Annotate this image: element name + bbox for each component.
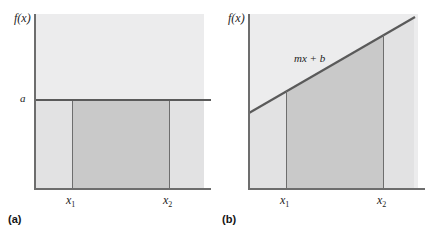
function-label-b: mx + b	[294, 53, 325, 64]
x-tick-sub-x1-b: 1	[285, 200, 289, 209]
x-axis-a	[34, 188, 211, 190]
x-tick-label-x2-a: x2	[163, 194, 172, 209]
x-tick-sub-x2-a: 2	[168, 200, 172, 209]
x-tick-sub-x2-b: 2	[382, 200, 386, 209]
x-tick-label-x1-a: x1	[66, 194, 75, 209]
x-axis-b	[248, 188, 425, 190]
y-axis-label-a: f(x)	[14, 12, 31, 24]
panel-caption-a: (a)	[8, 214, 21, 225]
vertical-line-x1-b	[286, 91, 287, 189]
panel-a: f(x) a x1 x2 (a)	[0, 0, 214, 238]
y-axis-b	[248, 14, 250, 189]
x-tick-label-x1-b: x1	[280, 194, 289, 209]
function-line-a	[36, 99, 211, 101]
y-axis-label-b: f(x)	[228, 12, 245, 24]
x-tick-label-x2-b: x2	[377, 194, 386, 209]
value-label-a: a	[20, 93, 26, 104]
y-axis-a	[34, 14, 36, 189]
figure-container: f(x) a x1 x2 (a) f(x) mx + b x1 x2 (b)	[0, 0, 428, 238]
panel-b: f(x) mx + b x1 x2 (b)	[214, 0, 428, 238]
x-tick-sub-x1-a: 1	[71, 200, 75, 209]
panel-caption-b: (b)	[222, 214, 236, 225]
vertical-line-x2-b	[383, 35, 384, 189]
vertical-line-x2-a	[169, 101, 170, 189]
plot-background-b	[250, 14, 418, 188]
region-integral-a	[72, 101, 169, 188]
vertical-line-x1-a	[72, 101, 73, 189]
